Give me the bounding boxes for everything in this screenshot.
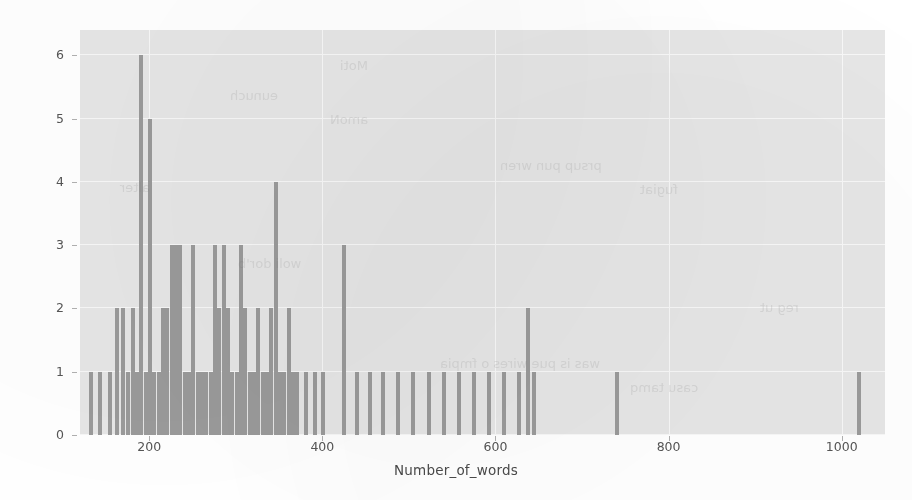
plot-area bbox=[80, 30, 885, 435]
x-tick-label: 600 bbox=[465, 441, 525, 454]
gridline-horizontal bbox=[80, 54, 885, 55]
histogram-bar bbox=[517, 372, 521, 435]
histogram-bar bbox=[427, 372, 431, 435]
histogram-bar bbox=[108, 372, 112, 435]
gridline-horizontal bbox=[80, 307, 885, 308]
gridline-horizontal bbox=[80, 181, 885, 182]
histogram-bar bbox=[368, 372, 372, 435]
y-tick-label: 6 bbox=[0, 49, 82, 62]
histogram-bar bbox=[411, 372, 415, 435]
histogram-bar bbox=[98, 372, 102, 435]
x-axis-label: Number_of_words bbox=[0, 462, 912, 478]
histogram-bar bbox=[115, 308, 119, 435]
x-tick-label: 800 bbox=[639, 441, 699, 454]
y-tick-label: 0 bbox=[0, 429, 82, 442]
histogram-bar bbox=[532, 372, 536, 435]
x-tick-label: 200 bbox=[119, 441, 179, 454]
y-tick-label: 2 bbox=[0, 302, 82, 315]
gridline-horizontal bbox=[80, 118, 885, 119]
histogram-bar bbox=[857, 372, 861, 435]
histogram-bar bbox=[313, 372, 317, 435]
histogram-bar bbox=[442, 372, 446, 435]
gridline-horizontal bbox=[80, 244, 885, 245]
histogram-bar bbox=[487, 372, 491, 435]
histogram-bar bbox=[526, 308, 530, 435]
histogram-bar bbox=[295, 372, 299, 435]
y-tick-label: 3 bbox=[0, 239, 82, 252]
histogram-bar bbox=[355, 372, 359, 435]
gridline-vertical bbox=[495, 30, 496, 435]
y-tick-label: 5 bbox=[0, 113, 82, 126]
histogram-bar bbox=[89, 372, 93, 435]
histogram-bar bbox=[502, 372, 506, 435]
histogram-bar bbox=[615, 372, 619, 435]
y-tick-label: 1 bbox=[0, 366, 82, 379]
histogram-bar bbox=[472, 372, 476, 435]
histogram-figure: 0123456 2004006008001000 Number_of_words… bbox=[0, 0, 912, 500]
x-tick-label: 1000 bbox=[812, 441, 872, 454]
x-tick-label: 400 bbox=[292, 441, 352, 454]
y-tick-label: 4 bbox=[0, 176, 82, 189]
gridline-vertical bbox=[669, 30, 670, 435]
histogram-bar bbox=[121, 308, 125, 435]
gridline-vertical bbox=[842, 30, 843, 435]
histogram-bar bbox=[396, 372, 400, 435]
histogram-bar bbox=[321, 372, 325, 435]
histogram-bar bbox=[304, 372, 308, 435]
histogram-bar bbox=[457, 372, 461, 435]
histogram-bar bbox=[342, 245, 346, 435]
histogram-bar bbox=[381, 372, 385, 435]
